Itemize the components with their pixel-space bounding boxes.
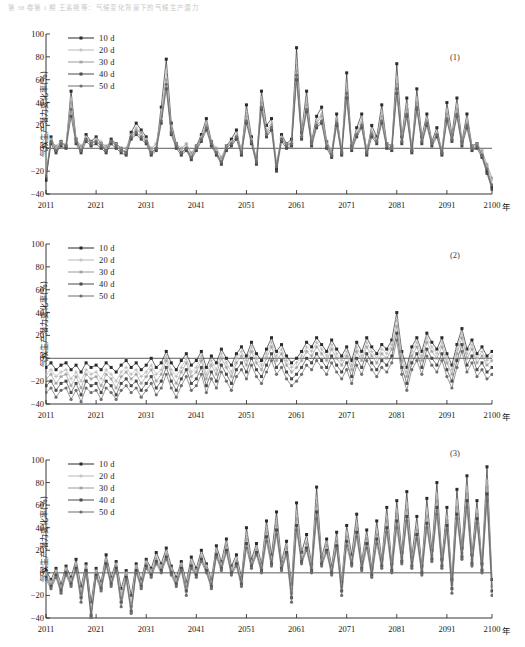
plot-area xyxy=(0,440,525,645)
plot-area xyxy=(0,232,525,432)
page-header: 第 38 卷第 1 期 王素艳等：气候变化背景下的气候生产潜力 xyxy=(8,2,199,12)
plot-area xyxy=(0,22,525,222)
series-10d xyxy=(45,46,494,188)
series-40d xyxy=(45,78,494,191)
chart-panel-1: 气候生产潜力变化率(%)100806040200−20−402011202120… xyxy=(0,22,525,222)
chart-panel-2: 气候生产潜力变化率(%)100806040200−20−402011202120… xyxy=(0,232,525,432)
series-50d xyxy=(44,74,493,187)
chart-panel-3: 气候生产潜力变化率(%)100806040200−20−402011202120… xyxy=(0,440,525,645)
